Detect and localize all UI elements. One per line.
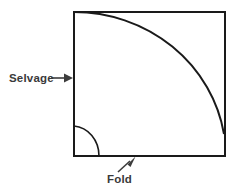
fold-callout [118, 157, 136, 173]
selvage-label: Selvage [9, 72, 54, 84]
selvage-arrow-head [64, 74, 73, 83]
diagram-canvas: Selvage Fold [0, 0, 235, 191]
selvage-callout [51, 74, 73, 83]
fold-label: Fold [107, 173, 132, 185]
fabric-square-outline [74, 12, 225, 156]
fabric-fold-diagram: Selvage Fold [0, 0, 235, 191]
fold-arrow-shaft [118, 161, 130, 172]
